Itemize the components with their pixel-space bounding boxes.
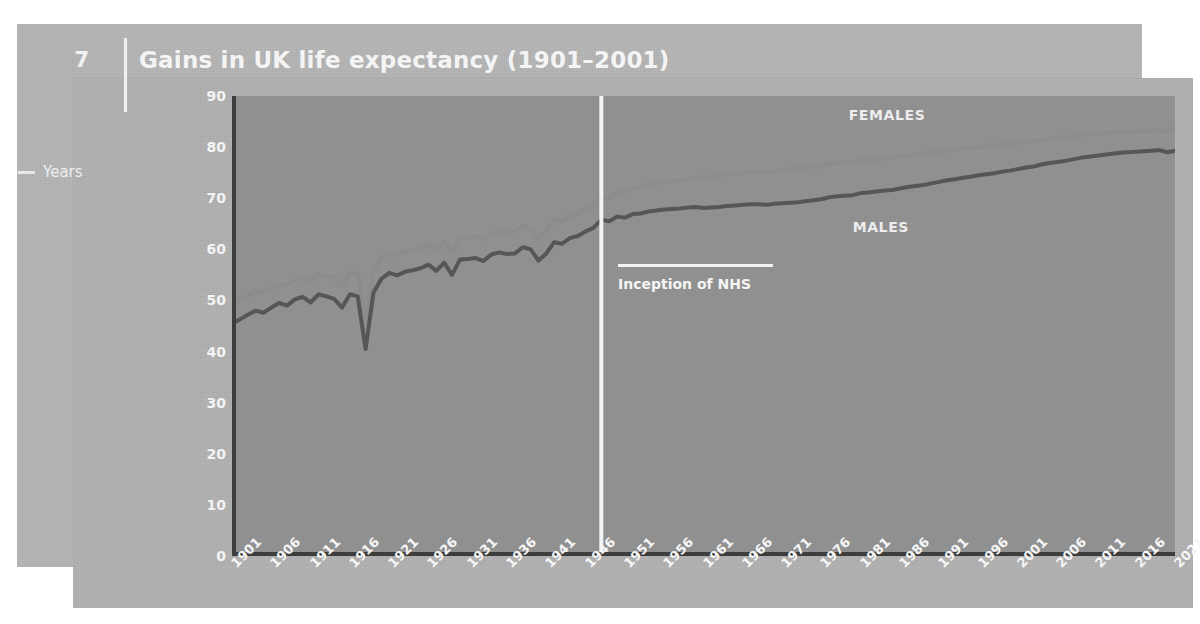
line-chart-svg <box>232 96 1175 556</box>
y-axis-tick-labels: 0102030405060708090 <box>178 96 226 556</box>
y-axis-tick-label: 70 <box>182 190 226 206</box>
screenshot-root: 7 Gains in UK life expectancy (1901–2001… <box>0 0 1200 624</box>
series-line-males <box>232 150 1175 349</box>
title-divider-rule <box>124 38 127 112</box>
nhs-annotation-rule <box>618 264 773 267</box>
plot-area <box>232 96 1175 556</box>
x-axis-tick-labels: 1901190619111916192119261931193619411946… <box>232 560 1192 620</box>
dash-icon <box>18 171 35 174</box>
y-axis-tick-label: 40 <box>182 344 226 360</box>
series-label-females: FEMALES <box>849 107 926 123</box>
y-axis-tick-label: 0 <box>182 548 226 564</box>
y-axis-tick-label: 30 <box>182 395 226 411</box>
nhs-annotation: Inception of NHS <box>618 264 776 292</box>
y-axis-tick-label: 50 <box>182 292 226 308</box>
page-title: Gains in UK life expectancy (1901–2001) <box>139 47 670 73</box>
y-axis-tick-label: 80 <box>182 139 226 155</box>
series-label-males: MALES <box>853 219 909 235</box>
y-axis-title-group: Years <box>18 163 83 181</box>
nhs-annotation-label: Inception of NHS <box>618 276 776 292</box>
y-axis-tick-label: 90 <box>182 88 226 104</box>
y-axis-tick-label: 20 <box>182 446 226 462</box>
y-axis-title: Years <box>43 163 83 181</box>
y-axis-tick-label: 60 <box>182 241 226 257</box>
page-number: 7 <box>52 48 112 72</box>
y-axis-tick-label: 10 <box>182 497 226 513</box>
